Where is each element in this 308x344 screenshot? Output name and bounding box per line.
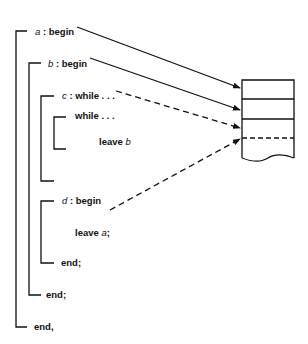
keyword-begin: begin xyxy=(49,26,74,37)
bracket-d xyxy=(41,201,54,263)
arrow-b xyxy=(90,58,240,110)
arrow-a xyxy=(77,27,240,88)
label-c-while: c : while . . . xyxy=(62,90,115,101)
bracket-a xyxy=(16,31,27,327)
label-inner-while: while . . . xyxy=(75,110,115,121)
keyword-while: while . . . xyxy=(75,110,115,121)
bracket-c xyxy=(41,96,54,181)
arrow-c xyxy=(116,91,240,128)
label-d-end: end; xyxy=(61,257,81,268)
bracket-inner-while xyxy=(54,117,66,149)
label-b-end: end; xyxy=(46,289,66,300)
stack-bottom-wave xyxy=(242,155,294,161)
label-b-begin: b : begin xyxy=(48,58,87,69)
label-a-begin: a : begin xyxy=(35,26,74,37)
arrow-d xyxy=(110,139,240,210)
keyword-while: while . . . xyxy=(75,90,115,101)
label-leave-b: leave b xyxy=(99,136,131,147)
keyword-begin: begin xyxy=(76,195,101,206)
bracket-b xyxy=(29,63,41,295)
label-leave-a: leave a; xyxy=(75,227,110,238)
keyword-begin: begin xyxy=(62,58,87,69)
label-a-end: end, xyxy=(34,321,54,332)
label-d-begin: d : begin xyxy=(62,195,101,206)
